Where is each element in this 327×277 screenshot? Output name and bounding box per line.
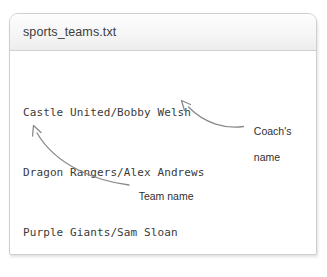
- coach-name-callout-label: Coach's name: [248, 112, 291, 164]
- text-line: Castle United/Bobby Welsh: [23, 103, 205, 123]
- window-titlebar[interactable]: sports_teams.txt: [10, 14, 316, 51]
- callout-line: Coach's: [254, 125, 292, 137]
- callout-line: Team name: [139, 190, 194, 202]
- text-line: Purple Giants/Sam Sloan: [23, 223, 205, 243]
- team-name-callout-label: Team name: [133, 177, 194, 203]
- document-lines: Castle United/Bobby Welsh Dragon Rangers…: [23, 63, 205, 277]
- callout-line: name: [254, 151, 280, 163]
- window-title: sports_teams.txt: [23, 25, 116, 39]
